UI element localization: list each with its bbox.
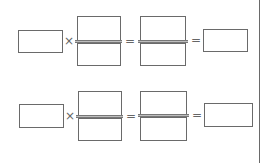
fraction-2-denominator-box[interactable] bbox=[140, 117, 187, 141]
fraction-2-denominator-box[interactable] bbox=[140, 43, 186, 66]
equals-sign: = bbox=[192, 109, 202, 121]
whole-number-box[interactable] bbox=[19, 104, 64, 128]
equals-sign: = bbox=[191, 34, 201, 46]
result-box[interactable] bbox=[203, 29, 248, 52]
equals-sign: = bbox=[125, 35, 135, 47]
equals-sign: = bbox=[126, 110, 136, 122]
fraction-1-numerator-box[interactable] bbox=[77, 16, 121, 41]
multiply-sign: × bbox=[64, 35, 74, 47]
fraction-1-denominator-box[interactable] bbox=[77, 43, 121, 66]
fraction-1-denominator-box[interactable] bbox=[78, 118, 122, 141]
fraction-1-numerator-box[interactable] bbox=[78, 91, 122, 116]
fraction-2-numerator-box[interactable] bbox=[140, 91, 187, 116]
multiply-sign: × bbox=[65, 110, 75, 122]
whole-number-box[interactable] bbox=[18, 30, 63, 53]
fraction-2-numerator-box[interactable] bbox=[140, 16, 186, 41]
result-box[interactable] bbox=[204, 103, 253, 127]
margin-divider-line bbox=[259, 0, 260, 163]
